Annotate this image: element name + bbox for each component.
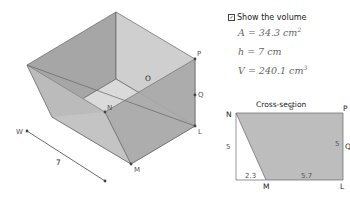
cs-vertex-p: P — [343, 104, 348, 113]
point-label-w: W — [16, 128, 23, 136]
volume-formula: V = 240.1 cm3 — [238, 64, 307, 76]
point-label-l: L — [198, 128, 202, 136]
cs-dim-top: 8 — [289, 104, 293, 112]
cs-dim-bottom-right: 5.7 — [301, 172, 312, 180]
height-length-label: 7 — [56, 158, 61, 167]
cross-section-title: Cross-section — [256, 100, 307, 109]
point-label-p: P — [197, 50, 201, 58]
point-label-n: N — [107, 104, 112, 112]
cs-dim-right: 5 — [335, 140, 339, 148]
point-label-m: M — [134, 166, 140, 174]
height-formula: h = 7 cm — [238, 46, 282, 57]
show-volume-checkbox[interactable]: ✓ Show the volume — [228, 13, 306, 22]
cs-vertex-l: L — [340, 182, 345, 191]
show-volume-label: Show the volume — [237, 13, 306, 22]
area-formula: A = 34.3 cm2 — [237, 26, 301, 38]
diagram-canvas: P Q L M N O W 7 A = 34.3 cm2 h = 7 cm V … — [0, 0, 350, 198]
point-label-q: Q — [198, 91, 204, 99]
point-label-o: O — [145, 74, 151, 83]
prism-solid — [27, 12, 195, 164]
cs-dim-bottom-left: 2.3 — [245, 172, 256, 180]
checkbox-check-icon[interactable]: ✓ — [228, 14, 235, 21]
cs-vertex-n: N — [226, 110, 232, 119]
cross-section-shape — [236, 113, 343, 180]
cs-vertex-q: Q — [345, 142, 350, 151]
cs-vertex-m: M — [263, 182, 269, 191]
cs-dim-left: 5 — [226, 143, 230, 151]
